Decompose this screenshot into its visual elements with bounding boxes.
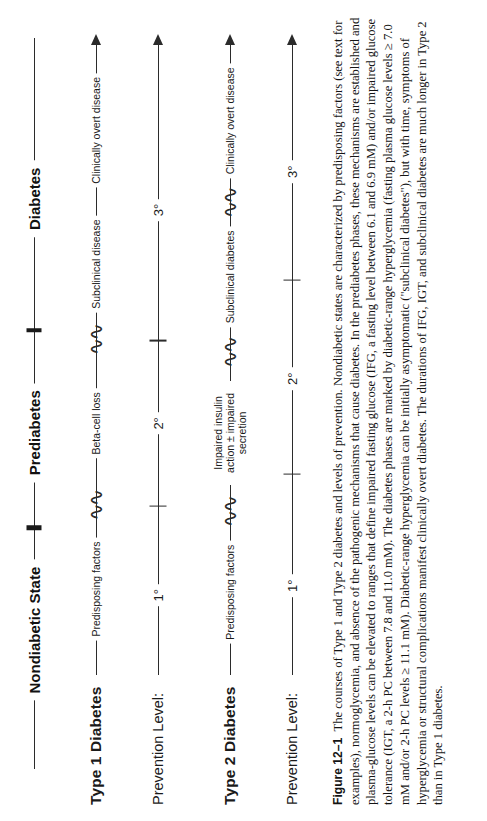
type-2-phase-subclinical-diabetes: Subclinical diabetes (224, 226, 236, 327)
row-type-1-diabetes: Type 1 Diabetes ∿∿ ∿∿ Predisposing facto… (76, 16, 116, 805)
row-prevention-level-type-2: Prevention Level: 1° 2° 3° (272, 16, 312, 805)
disease-state-axis-row: Nondiabetic State Prediabetes Diabetes (14, 16, 54, 805)
rotated-page-container: Nondiabetic State Prediabetes Diabetes T… (0, 0, 487, 821)
row-label-prevention-level-1: Prevention Level: (150, 693, 166, 805)
state-label-prediabetes: Prediabetes (26, 383, 43, 482)
row-type-2-diabetes: Type 2 Diabetes ∿∿ ∿∿ ∿∿ Predisposing fa… (210, 16, 250, 805)
state-divider-tick-1 (27, 526, 42, 531)
break-squiggle-icon: ∿∿ (86, 326, 107, 355)
figure-caption: Figure 12–1 The courses of Type 1 and Ty… (330, 16, 447, 805)
prevention-1-axis-arrow-icon (153, 34, 163, 45)
row-label-type-1-diabetes: Type 1 Diabetes (87, 687, 105, 805)
type-1-phase-predisposing-factors: Predisposing factors (90, 537, 102, 640)
state-divider-tick-2 (27, 328, 42, 333)
diabetes-course-diagram: Nondiabetic State Prediabetes Diabetes T… (14, 16, 314, 805)
figure-caption-text: The courses of Type 1 and Type 2 diabete… (331, 18, 445, 805)
prevention-level-secondary: 2° (151, 412, 166, 434)
prevention-2-tick-1 (284, 474, 301, 475)
type-1-phase-clinically-overt-disease: Clinically overt disease (90, 73, 102, 188)
prevention-level-primary: 1° (151, 584, 166, 606)
break-squiggle-icon: ∿∿ (220, 339, 241, 368)
break-squiggle-icon: ∿∿ (220, 189, 241, 218)
break-squiggle-icon: ∿∿ (86, 492, 107, 521)
prevention-level-secondary: 2° (285, 368, 300, 390)
figure-number-label: Figure 12–1 (331, 738, 345, 805)
row-prevention-level-type-1: Prevention Level: 1° 2° 3° (138, 16, 178, 805)
prevention-2-tick-2 (284, 279, 301, 280)
prevention-1-tick-1 (150, 506, 167, 507)
type-1-phase-beta-cell-loss: Beta-cell loss (90, 388, 102, 458)
figure-page: Nondiabetic State Prediabetes Diabetes T… (0, 0, 487, 821)
type-2-phase-predisposing-factors: Predisposing factors (224, 541, 236, 644)
state-label-nondiabetic: Nondiabetic State (26, 560, 43, 701)
row-label-prevention-level-2: Prevention Level: (284, 693, 300, 805)
state-label-diabetes: Diabetes (26, 161, 43, 238)
row-label-type-2-diabetes: Type 2 Diabetes (221, 687, 239, 805)
prevention-1-tick-2 (150, 340, 167, 341)
type-1-axis-arrow-icon (91, 34, 101, 45)
type-2-phase-impaired-insulin-action: Impaired insulin action ± impaired secre… (212, 381, 248, 485)
type-1-phase-subclinical-disease: Subclinical disease (90, 215, 102, 312)
prevention-2-axis-arrow-icon (287, 34, 297, 45)
prevention-level-tertiary: 3° (285, 161, 300, 183)
type-2-axis-arrow-icon (225, 34, 235, 45)
prevention-level-tertiary: 3° (151, 199, 166, 221)
prevention-1-axis-line (158, 38, 159, 675)
type-2-phase-clinically-overt-disease: Clinically overt disease (224, 63, 236, 178)
prevention-level-primary: 1° (285, 575, 300, 597)
break-squiggle-icon: ∿∿ (220, 498, 241, 527)
